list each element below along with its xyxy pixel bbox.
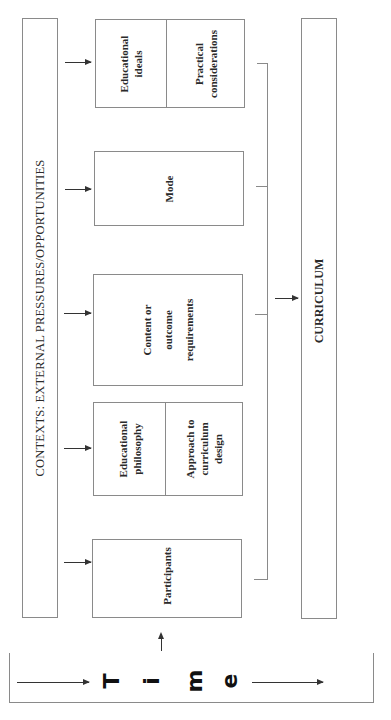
curriculum-label: CURRICULUM (312, 258, 326, 343)
time-letter-t: T (101, 669, 123, 693)
content-line-1: Content or (137, 299, 158, 362)
connector-tick-box-2 (256, 186, 268, 187)
connector-tick-box-5 (254, 579, 268, 580)
approach-curriculum-design-label: Approach to curriculum design (183, 420, 225, 479)
box-educational-ideals-practical: Educational ideals Practical considerati… (95, 19, 245, 108)
practical-considerations-line-1: Practical (192, 30, 206, 98)
curriculum-box: CURRICULUM (301, 18, 337, 619)
time-letter-i: i (141, 669, 163, 693)
connector-tick-box-3 (255, 314, 268, 315)
arrow-context-to-box-5 (64, 562, 91, 563)
practical-considerations-label: Practical considerations (192, 30, 220, 98)
time-bracket-left (9, 653, 10, 703)
educational-ideals-label: Educational ideals (117, 35, 145, 92)
time-bracket-bottom (9, 702, 374, 703)
participants-label: Participants (160, 547, 174, 604)
arrow-context-to-box-3 (64, 313, 91, 314)
educational-ideals-line-2: ideals (131, 35, 145, 92)
connector-tick-box-1 (257, 63, 268, 64)
box-4-left: Educational philosophy (94, 403, 165, 495)
contexts-box: CONTEXTS: EXTERNAL PRESSURES/OPPORTUNITI… (22, 18, 58, 618)
box-4-right: Approach to curriculum design (166, 403, 242, 495)
box-content-outcome: Content or outcome requirements (93, 274, 243, 386)
time-letter-e: e (219, 669, 241, 693)
arrow-context-to-box-2 (65, 189, 91, 190)
box-philosophy-approach: Educational philosophy Approach to curri… (93, 402, 243, 496)
mode-label: Mode (162, 175, 176, 202)
arrow-context-to-box-4 (64, 448, 91, 449)
contexts-label: CONTEXTS: EXTERNAL PRESSURES/OPPORTUNITI… (33, 160, 47, 477)
educational-philosophy-line-1: Educational (116, 421, 130, 478)
box-1-right: Practical considerations (167, 20, 244, 107)
approach-line-1: Approach to (183, 420, 197, 479)
approach-line-2: curriculum (197, 420, 211, 479)
box-mode: Mode (94, 151, 244, 226)
arrow-time-to-participants (161, 634, 162, 651)
content-outcome-label: Content or outcome requirements (137, 299, 200, 362)
time-arrow-in (17, 682, 89, 683)
approach-line-3: design (211, 420, 225, 479)
time-arrow-out (252, 682, 323, 683)
educational-philosophy-line-2: philosophy (130, 421, 144, 478)
arrow-context-to-box-1 (65, 62, 91, 63)
time-letter-m: m (184, 669, 206, 693)
content-line-2: outcome (158, 299, 179, 362)
time-bracket-right (373, 653, 374, 703)
content-line-3: requirements (179, 299, 200, 362)
box-participants: Participants (92, 539, 242, 618)
educational-ideals-line-1: Educational (117, 35, 131, 92)
educational-philosophy-label: Educational philosophy (116, 421, 144, 478)
connector-vertical (267, 63, 268, 580)
practical-considerations-line-2: considerations (206, 30, 220, 98)
box-1-left: Educational ideals (96, 20, 166, 107)
arrow-to-curriculum (275, 298, 298, 299)
